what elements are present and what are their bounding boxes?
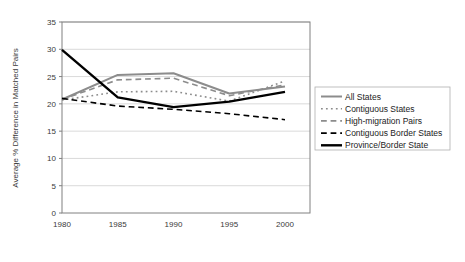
y-tick-label: 25 [47, 73, 56, 82]
y-axis-title: Average % Difference in Matched Pairs [11, 48, 20, 187]
legend-label: Contiguous States [345, 104, 414, 114]
y-tick-label: 20 [47, 100, 56, 109]
x-tick-label: 1995 [220, 220, 238, 229]
legend-label: All States [345, 92, 381, 102]
y-tick-label: 5 [52, 182, 57, 191]
y-tick-label: 0 [52, 209, 57, 218]
x-tick-label: 1985 [109, 220, 127, 229]
legend-label: High-migration Pairs [345, 116, 422, 126]
chart-legend: All StatesContiguous StatesHigh-migratio… [315, 87, 450, 150]
chart-container: 05101520253035 19801985199019952000 Aver… [0, 0, 465, 262]
legend-label: Contiguous Border States [345, 128, 442, 138]
legend-label: Province/Border State [345, 140, 428, 150]
y-tick-label: 15 [47, 127, 56, 136]
x-tick-label: 1980 [53, 220, 71, 229]
line-chart: 05101520253035 19801985199019952000 Aver… [0, 0, 465, 262]
y-tick-label: 30 [47, 45, 56, 54]
y-tick-label: 35 [47, 18, 56, 27]
y-tick-label: 10 [47, 154, 56, 163]
x-tick-label: 1990 [165, 220, 183, 229]
x-tick-label: 2000 [276, 220, 294, 229]
